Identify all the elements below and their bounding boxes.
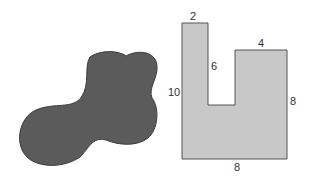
label-notch-depth: 6: [211, 61, 217, 72]
label-top-right-width: 4: [258, 38, 264, 49]
u-shaped-polygon: [182, 23, 287, 159]
diagram-canvas: [0, 0, 311, 185]
irregular-blob-shape: [20, 52, 157, 166]
label-bottom-width: 8: [234, 162, 240, 173]
label-top-left-width: 2: [190, 11, 196, 22]
label-right-height: 8: [290, 96, 296, 107]
label-left-height: 10: [168, 87, 180, 98]
